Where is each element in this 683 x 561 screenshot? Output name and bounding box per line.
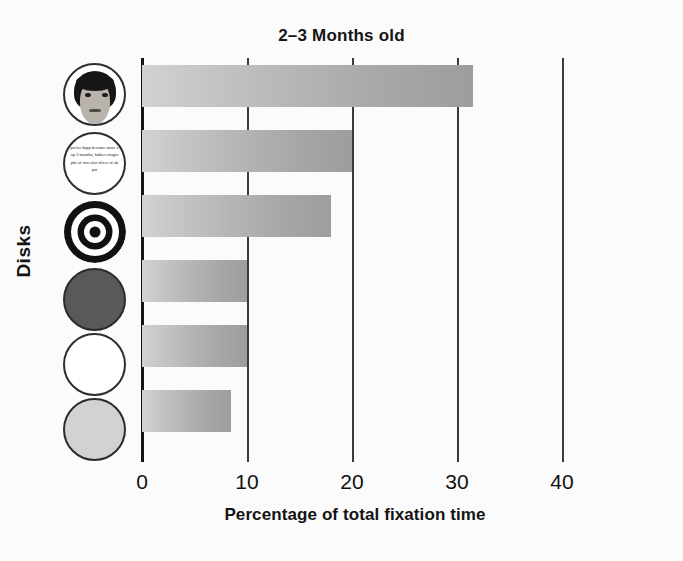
bullseye-ring-5 bbox=[89, 226, 100, 237]
x-axis-label: Percentage of total fixation time bbox=[120, 505, 590, 525]
plot-area bbox=[142, 62, 562, 462]
gridline-20 bbox=[352, 58, 354, 462]
x-tick-20: 20 bbox=[322, 470, 382, 494]
chart-title: 2–3 Months old bbox=[0, 26, 683, 46]
face-fringe bbox=[76, 75, 114, 91]
gridline-40 bbox=[562, 58, 564, 462]
white-disk-icon bbox=[63, 333, 126, 396]
x-tick-10: 10 bbox=[217, 470, 277, 494]
red-disk-icon bbox=[63, 268, 126, 331]
x-tick-0: 0 bbox=[112, 470, 172, 494]
bar-bullseye bbox=[142, 195, 331, 237]
bar-white-disk bbox=[142, 325, 247, 367]
bar-red-disk bbox=[142, 260, 247, 302]
face-eye-right bbox=[102, 93, 108, 97]
y-axis-label: Disks bbox=[13, 191, 35, 311]
newsprint-text: prefer happ become more sop 3 months, ba… bbox=[65, 134, 124, 193]
bullseye-disk-icon bbox=[63, 200, 126, 263]
gridline-10 bbox=[247, 58, 249, 462]
gridline-30 bbox=[457, 58, 459, 462]
x-tick-30: 30 bbox=[427, 470, 487, 494]
x-tick-40: 40 bbox=[532, 470, 592, 494]
yellow-disk-icon bbox=[63, 398, 126, 461]
chart-figure: 2–3 Months old Disks Percentage of total… bbox=[0, 0, 683, 561]
bar-yellow-disk bbox=[142, 390, 231, 432]
bar-face bbox=[142, 65, 473, 107]
newsprint-disk-icon: prefer happ become more sop 3 months, ba… bbox=[63, 132, 126, 195]
face-disk-icon bbox=[63, 63, 126, 126]
face-eye-left bbox=[85, 93, 91, 97]
bar-newsprint bbox=[142, 130, 352, 172]
face-mouth bbox=[89, 109, 101, 112]
